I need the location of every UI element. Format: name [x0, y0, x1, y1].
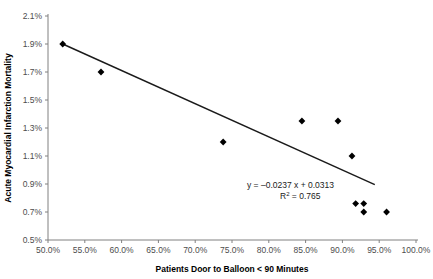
y-tick-label: 1.1% [23, 151, 43, 161]
x-tick-label: 90.0% [330, 245, 355, 255]
y-tick-label: 0.7% [23, 207, 43, 217]
y-tick-label: 0.5% [23, 235, 43, 245]
chart-canvas: 0.5%0.7%0.9%1.1%1.3%1.5%1.7%1.9%2.1% 50.… [0, 0, 433, 279]
chart-background [0, 0, 433, 279]
y-tick-label: 2.1% [23, 11, 43, 21]
x-tick-label: 80.0% [257, 245, 282, 255]
y-tick-label: 1.9% [23, 39, 43, 49]
r-squared-label: R2 = 0.765 [280, 191, 321, 201]
y-tick-label: 1.5% [23, 95, 43, 105]
y-tick-label: 1.7% [23, 67, 43, 77]
x-tick-label: 95.0% [367, 245, 392, 255]
x-tick-label: 50.0% [36, 245, 61, 255]
y-tick-label: 1.3% [23, 123, 43, 133]
y-tick-label: 0.9% [23, 179, 43, 189]
x-tick-label: 100.0% [402, 245, 431, 255]
x-tick-label: 70.0% [183, 245, 208, 255]
scatter-plot-chart: 0.5%0.7%0.9%1.1%1.3%1.5%1.7%1.9%2.1% 50.… [0, 0, 433, 279]
x-tick-label: 75.0% [220, 245, 245, 255]
x-tick-label: 85.0% [294, 245, 319, 255]
x-axis-title: Patients Door to Balloon < 90 Minutes [156, 264, 309, 274]
x-tick-label: 65.0% [146, 245, 171, 255]
x-tick-label: 55.0% [73, 245, 98, 255]
y-axis-title: Acute Myocardial Infarction Mortality [3, 53, 13, 203]
x-tick-label: 60.0% [110, 245, 135, 255]
regression-equation-label: y = –0.0237 x + 0.0313 [247, 180, 334, 190]
